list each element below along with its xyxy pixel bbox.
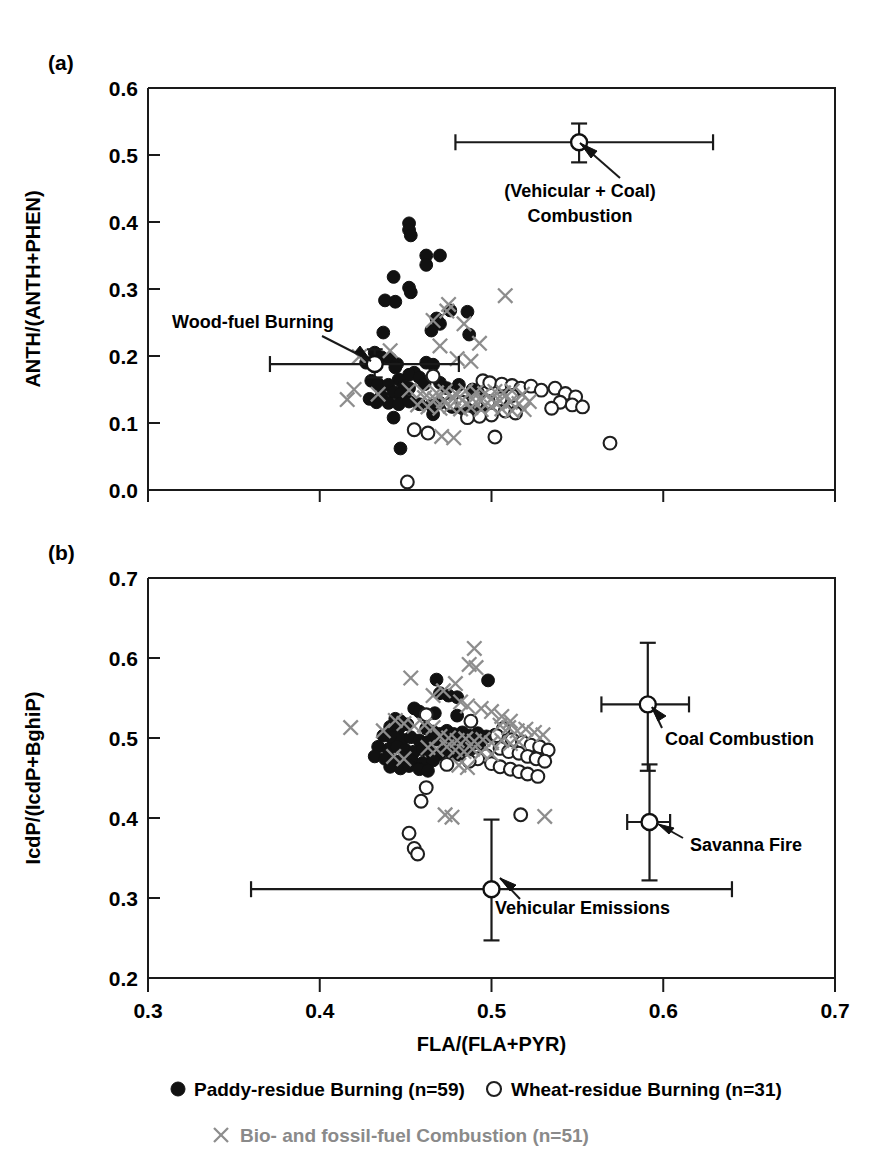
panel-b-y-ticks [148,578,160,978]
coal-combustion-label: Coal Combustion [665,729,814,749]
panel-b-ylabel: IcdP/(IcdP+BghiP) [22,692,44,865]
data-point-cross [538,809,552,823]
panel-a-frame [148,88,835,490]
annotation-savanna-fire: Savanna Fire [658,824,802,855]
data-point-open [422,427,435,440]
data-point-filled [461,305,474,318]
annotation-wood-fuel-burning: Wood-fuel Burning [172,312,371,361]
annotation-vehicular-emissions: Vehicular Emissions [495,878,670,918]
data-point-cross [404,671,418,685]
data-point-cross [347,382,361,396]
panel-b-tag: (b) [48,541,75,564]
data-point-cross [457,317,471,331]
legend-label-bio-fossil: Bio- and fossil-fuel Combustion (n=51) [240,1125,589,1146]
reference-marker-1 [455,124,713,163]
data-point-open [535,384,548,397]
data-point-filled [404,286,417,299]
panel-b-ytick-3: 0.5 [109,727,139,750]
panel-a-ytick-0: 0.0 [109,479,138,502]
data-point-open [420,781,433,794]
data-point-open [531,770,544,783]
panel-a-ytick-2: 0.2 [109,345,138,368]
panel-b-reference-points [251,643,732,941]
data-point-open [415,795,428,808]
data-point-cross [343,720,357,734]
filled-circle-icon [171,1082,185,1096]
panel-a-ytick-4: 0.4 [109,211,139,234]
scatter-figure: (a) 0.0 0.1 0.2 0.3 0.4 0.5 0.6 [0,0,895,1157]
panel-a-tag: (a) [48,51,74,74]
coal-combustion-arrowhead [652,707,666,721]
panel-b: (b) 0.2 0.3 0.4 0.5 0.6 0.7 [22,541,850,1055]
data-point-cross [522,394,536,408]
data-point-filled [387,271,400,284]
data-point-open [427,370,440,383]
panel-b-ytick-0: 0.2 [109,967,138,990]
data-point-filled [377,326,390,339]
reference-marker-2 [251,820,732,941]
data-point-filled [389,295,402,308]
data-point-open [461,411,474,424]
panel-a-ytick-6: 0.6 [109,77,138,100]
grey-cross-icon [214,1128,228,1142]
data-point-open [545,402,558,415]
data-point-open [538,755,551,768]
panel-a-ytick-5: 0.5 [109,144,139,167]
panel-a-reference-points [270,124,713,378]
panel-b-ytick-1: 0.3 [109,887,138,910]
data-point-open [408,423,421,436]
data-point-cross [447,431,461,445]
panel-a-ylabel: ANTH/(ANTH+PHEN) [22,190,44,387]
data-point-cross [460,699,474,713]
reference-point-circle [484,881,500,897]
data-point-open [514,808,527,821]
data-point-open [604,437,617,450]
savanna-fire-label: Savanna Fire [690,835,802,855]
panel-b-ytick-2: 0.4 [109,807,139,830]
data-point-cross [498,289,512,303]
data-point-filled [394,442,407,455]
data-point-open [464,715,477,728]
open-circle-icon [487,1082,501,1096]
vehicular-emissions-label: Vehicular Emissions [495,898,670,918]
panel-a-y-ticks [148,88,160,490]
reference-point-circle [642,814,658,830]
data-point-filled [422,764,435,777]
data-point-filled [482,674,495,687]
data-point-open [401,476,414,489]
vehicular-coal-label-line2: Combustion [528,206,633,226]
panel-b-x-ticks [148,978,835,992]
data-point-open [403,827,416,840]
legend-entry-bio-fossil: Bio- and fossil-fuel Combustion (n=51) [214,1125,589,1146]
panel-b-xtick-1: 0.4 [305,999,335,1022]
data-point-cross [472,336,486,350]
legend-entry-wheat-residue: Wheat-residue Burning (n=31) [487,1079,782,1100]
data-point-cross [433,339,447,353]
data-point-cross [464,354,478,368]
legend-label-paddy: Paddy-residue Burning (n=59) [194,1079,465,1100]
panel-a-ytick-3: 0.3 [109,278,138,301]
panel-b-xtick-0: 0.3 [133,999,162,1022]
vehicular-coal-label-line1: (Vehicular + Coal) [504,181,656,201]
panel-b-xlabel: FLA/(FLA+PYR) [417,1033,566,1055]
data-point-filled [387,411,400,424]
panel-b-xtick-3: 0.6 [649,999,678,1022]
panel-a-data-points [340,217,616,488]
data-point-open [576,401,589,414]
data-point-filled [420,258,433,271]
data-point-open [489,431,502,444]
data-point-filled [389,361,402,374]
panel-b-data-points [343,641,554,860]
legend-entry-paddy-residue: Paddy-residue Burning (n=59) [171,1079,465,1100]
data-point-filled [404,229,417,242]
panel-b-ytick-4: 0.6 [109,647,138,670]
panel-a: (a) 0.0 0.1 0.2 0.3 0.4 0.5 0.6 [22,51,835,502]
reference-marker-1 [627,764,670,880]
panel-b-ytick-5: 0.7 [109,567,138,590]
data-point-open [411,848,424,861]
error-bars [251,820,732,941]
data-point-open [440,758,453,771]
panel-b-xtick-4: 0.7 [820,999,849,1022]
data-point-filled [434,249,447,262]
panel-a-ytick-1: 0.1 [109,412,139,435]
